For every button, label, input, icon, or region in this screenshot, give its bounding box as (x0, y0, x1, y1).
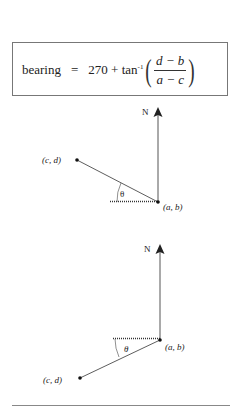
angle-label: θ (120, 189, 124, 199)
point-ab-label: (a, b) (163, 202, 183, 212)
point-ab (156, 200, 160, 204)
diagram-bottom: N θ (c, d) (a, b) (43, 244, 185, 385)
next-box-border (12, 405, 230, 406)
angle-arc (115, 339, 119, 357)
north-label: N (142, 107, 149, 117)
angle-label: θ (124, 344, 129, 354)
point-ab (158, 338, 162, 342)
north-label: N (144, 244, 151, 254)
diagram-top: N θ (c, d) (a, b) (42, 107, 183, 212)
bearing-diagrams: N θ (c, d) (a, b) N θ (c, d) (a, b) (0, 0, 244, 408)
point-cd-label: (c, d) (43, 375, 62, 385)
bearing-line (80, 340, 160, 378)
point-cd (75, 158, 79, 162)
point-ab-label: (a, b) (165, 342, 185, 352)
point-cd-label: (c, d) (42, 155, 61, 165)
point-cd (78, 376, 82, 380)
